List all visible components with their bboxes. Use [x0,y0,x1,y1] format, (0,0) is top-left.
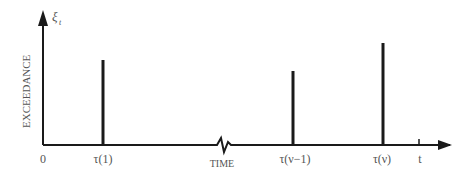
origin-label: 0 [40,152,46,166]
event-label-1: τ(1) [94,152,113,166]
x-axis-arrow-icon [438,140,452,150]
x-axis-label: TIME [210,158,234,169]
y-axis-subscript: t [59,18,62,27]
y-axis-symbol: ξ [52,9,58,24]
t-label: t [418,152,422,166]
exceedance-diagram: ξ t EXCEEDANCE 0 τ(1) TIME τ(ν−1) τ(ν) t [0,0,472,181]
event-label-nu: τ(ν) [373,152,391,166]
y-axis-label: EXCEEDANCE [20,54,32,128]
y-axis-arrow-icon [38,10,48,26]
event-label-nu-minus-1: τ(ν−1) [279,152,310,166]
